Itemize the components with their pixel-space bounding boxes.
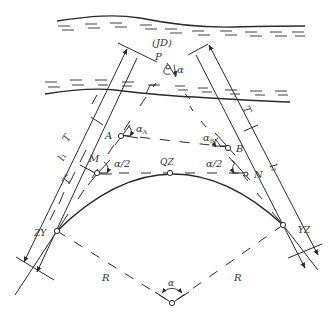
curve-layout-diagram: (JD) P α T l₁ T' A αA B αB M α/2 QZ α/2 … [0,0,330,318]
label-alpha-center: α [168,278,174,288]
river-bank-upper [57,16,305,27]
point-m [94,170,99,175]
label-alpha-half-left: α/2 [114,158,130,169]
label-yz: YZ [298,225,311,235]
label-r-right: R [233,272,242,283]
circular-curve [57,174,283,231]
label-l1: l₁ [55,151,68,163]
label-t-right: T [241,104,254,116]
label-alpha-half-right: α/2 [206,158,222,169]
radius-left [57,231,172,303]
point-p [166,65,170,69]
label-p: P [154,51,162,62]
label-alpha-a: αA [136,123,148,135]
point-center [169,300,174,305]
point-n [244,172,248,176]
label-zy: ZY [33,228,47,238]
river-water-dashes-lower [45,80,288,95]
label-alpha-b: αB [203,132,215,144]
label-r-left: R [101,272,110,283]
point-a [118,133,123,138]
label-t-left: T [60,131,73,143]
label-jd: (JD) [152,37,172,48]
dim-T-right [209,45,318,255]
point-qz [167,170,172,175]
label-m: M [88,153,100,164]
point-yz [280,222,285,227]
radius-right [172,225,283,303]
label-a: A [104,130,112,141]
label-n: N [253,169,264,180]
label-qz: QZ [160,157,174,167]
point-zy [54,228,59,233]
label-alpha-top: α [177,64,184,75]
point-b [225,145,230,150]
label-b: B [235,143,243,154]
label-l2: l₂ [268,162,281,174]
